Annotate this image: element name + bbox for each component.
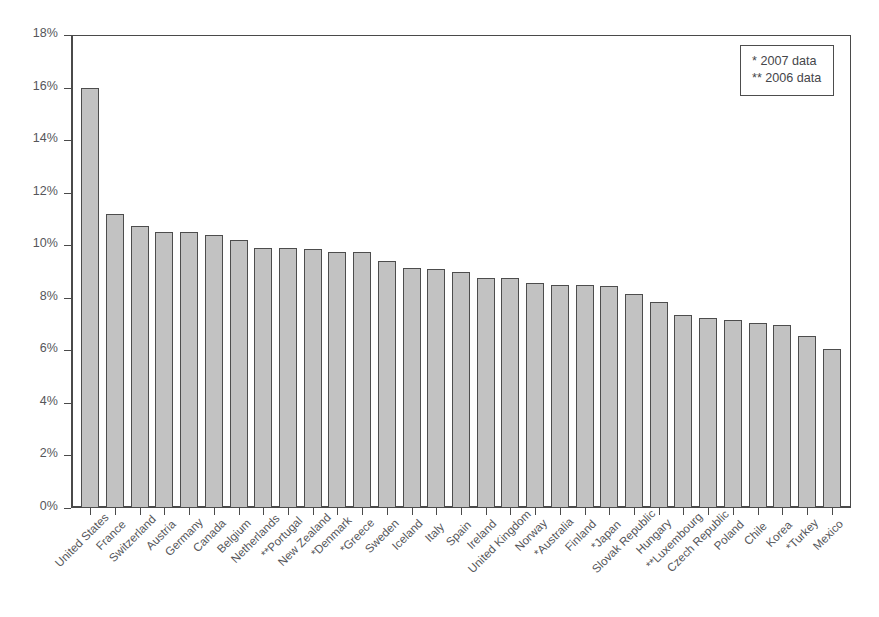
bar (304, 249, 322, 508)
y-axis-tick-mark (64, 193, 71, 194)
y-axis-tick-mark (64, 350, 71, 351)
bar (773, 325, 791, 508)
x-axis-tick-label: Chile (741, 519, 769, 547)
bar (650, 302, 668, 508)
bar (403, 268, 421, 508)
y-axis-tick-label: 0% (40, 499, 58, 513)
bar (823, 349, 841, 508)
x-axis-tick-mark (758, 508, 759, 515)
bar (427, 269, 445, 508)
x-axis-tick-mark (90, 508, 91, 515)
x-axis-tick-mark (436, 508, 437, 515)
bar (254, 248, 272, 508)
x-axis-tick-mark (659, 508, 660, 515)
y-axis-tick-label: 2% (40, 446, 58, 460)
bar (131, 226, 149, 508)
bar (501, 278, 519, 508)
bar (205, 235, 223, 508)
bar (526, 283, 544, 508)
x-axis-tick-mark (263, 508, 264, 515)
bars-layer (71, 35, 851, 508)
x-axis-tick-mark (313, 508, 314, 515)
bar (477, 278, 495, 508)
x-axis-tick-mark (115, 508, 116, 515)
x-axis-tick-mark (832, 508, 833, 515)
x-axis-tick-label: Italy (422, 520, 446, 544)
bar (328, 252, 346, 508)
x-axis-tick-mark (807, 508, 808, 515)
y-axis: 0%2%4%6%8%10%12%14%16%18% (0, 35, 71, 508)
x-axis-tick-mark (634, 508, 635, 515)
bar (798, 336, 816, 508)
x-axis-tick-mark (412, 508, 413, 515)
y-axis-tick-label: 6% (40, 341, 58, 355)
x-axis-tick-mark (609, 508, 610, 515)
x-axis-labels: United StatesFranceSwitzerlandAustriaGer… (71, 516, 861, 617)
bar (600, 286, 618, 508)
x-axis-tick-mark (708, 508, 709, 515)
y-axis-tick-label: 14% (33, 131, 58, 145)
x-axis-tick-mark (140, 508, 141, 515)
x-axis-tick-mark (362, 508, 363, 515)
legend-item-2007: * 2007 data (752, 53, 821, 70)
x-axis-tick-mark (461, 508, 462, 515)
legend-item-2006: ** 2006 data (752, 70, 821, 87)
x-axis-tick-mark (535, 508, 536, 515)
bar-chart: 0%2%4%6%8%10%12%14%16%18% United StatesF… (0, 0, 879, 617)
bar (674, 315, 692, 508)
y-axis-tick-label: 4% (40, 394, 58, 408)
y-axis-tick-mark (64, 298, 71, 299)
x-axis-tick-mark (782, 508, 783, 515)
y-axis-tick-label: 16% (33, 79, 58, 93)
x-axis-tick-mark (387, 508, 388, 515)
y-axis-tick-mark (64, 455, 71, 456)
y-axis-tick-label: 10% (33, 236, 58, 250)
x-axis-tick-mark (585, 508, 586, 515)
y-axis-tick-mark (64, 35, 71, 36)
x-axis-tick-mark (337, 508, 338, 515)
x-axis-tick-mark (486, 508, 487, 515)
y-axis-tick-label: 18% (33, 26, 58, 40)
y-axis-tick-mark (64, 88, 71, 89)
legend: * 2007 data ** 2006 data (740, 45, 834, 96)
x-axis-tick-mark (560, 508, 561, 515)
x-axis-ticks (71, 508, 851, 516)
bar (180, 232, 198, 508)
x-axis-tick-mark (510, 508, 511, 515)
y-axis-tick-label: 12% (33, 184, 58, 198)
bar (353, 252, 371, 508)
x-axis-tick-mark (214, 508, 215, 515)
x-axis-tick-mark (239, 508, 240, 515)
y-axis-tick-mark (64, 508, 71, 509)
bar (279, 248, 297, 508)
bar (378, 261, 396, 508)
y-axis-tick-mark (64, 403, 71, 404)
bar (699, 318, 717, 509)
bar (576, 285, 594, 508)
bar (155, 232, 173, 508)
bar (625, 294, 643, 508)
bar (230, 240, 248, 508)
y-axis-tick-label: 8% (40, 289, 58, 303)
bar (81, 88, 99, 508)
bar (106, 214, 124, 508)
bar (452, 272, 470, 509)
bar (551, 285, 569, 508)
x-axis-tick-mark (683, 508, 684, 515)
x-axis-tick-mark (189, 508, 190, 515)
y-axis-tick-mark (64, 140, 71, 141)
x-axis-tick-mark (288, 508, 289, 515)
x-axis-tick-mark (164, 508, 165, 515)
x-axis-tick-mark (733, 508, 734, 515)
y-axis-tick-mark (64, 245, 71, 246)
bar (724, 320, 742, 508)
bar (749, 323, 767, 508)
